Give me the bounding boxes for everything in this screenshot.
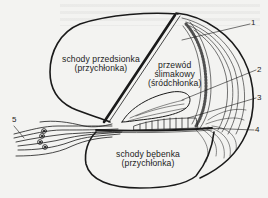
cochlea-diagram: schody przedsionka (przychłonka) przewód… <box>0 0 268 198</box>
label-cochlear-duct: przewód ślimakowy (śródchłonka) <box>148 61 201 88</box>
label-line: (przychłonka) <box>62 64 140 73</box>
spiral-ligament-fibers <box>196 109 246 162</box>
cochlear-nerve-fibers <box>14 121 122 156</box>
tectorial-membrane <box>122 92 190 122</box>
callout-number-3: 3 <box>257 94 261 102</box>
leader-4 <box>204 128 254 130</box>
outer-wall <box>176 13 253 178</box>
cochlea-cross-section-drawing <box>0 0 268 198</box>
label-line: (przychłonka) <box>116 159 180 168</box>
label-scala-tympani: schody bębenka (przychłonka) <box>116 150 180 168</box>
callout-number-4: 4 <box>255 126 259 134</box>
label-scala-vestibuli: schody przedsionka (przychłonka) <box>62 55 140 73</box>
callout-number-1: 1 <box>251 19 255 27</box>
callout-number-5: 5 <box>12 116 16 124</box>
label-line: (śródchłonka) <box>148 79 201 88</box>
callout-number-2: 2 <box>257 66 261 74</box>
